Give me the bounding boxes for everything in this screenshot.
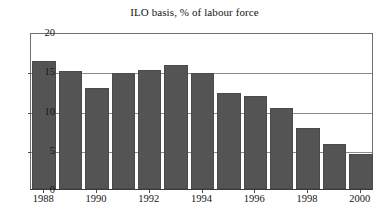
bar-1995 (217, 93, 240, 189)
bar-2000 (349, 154, 372, 189)
y-tick-label-5: 5 (29, 146, 55, 156)
x-tick-label-2000: 2000 (349, 193, 370, 204)
bar-1997 (270, 108, 293, 189)
x-tick-mark-1996 (254, 190, 255, 193)
bar-1992 (138, 70, 161, 189)
x-tick-mark-1998 (307, 190, 308, 193)
x-tick-label-1998: 1998 (297, 193, 318, 204)
x-tick-mark-1988 (43, 190, 44, 193)
x-tick-label-1990: 1990 (85, 193, 106, 204)
bar-1994 (191, 73, 214, 189)
bars-layer (31, 34, 372, 189)
chart-title: ILO basis, % of labour force (0, 6, 389, 18)
bar-1991 (112, 73, 135, 189)
x-tick-mark-1992 (149, 190, 150, 193)
x-tick-label-1994: 1994 (191, 193, 212, 204)
bar-1988 (32, 61, 55, 189)
bar-1996 (244, 96, 267, 189)
y-tick-label-20: 20 (29, 28, 55, 38)
bar-1989 (59, 71, 82, 189)
plot-area (30, 33, 373, 190)
x-tick-label-1996: 1996 (244, 193, 265, 204)
x-tick-mark-1990 (96, 190, 97, 193)
bar-chart-figure: ILO basis, % of labour force 05101520198… (0, 0, 389, 213)
bar-1990 (85, 88, 108, 189)
bar-1993 (164, 65, 187, 189)
x-tick-mark-2000 (360, 190, 361, 193)
x-tick-mark-1994 (202, 190, 203, 193)
bar-1999 (323, 144, 346, 189)
y-tick-label-15: 15 (29, 67, 55, 77)
x-tick-label-1988: 1988 (33, 193, 54, 204)
x-tick-label-1992: 1992 (138, 193, 159, 204)
y-tick-label-10: 10 (29, 107, 55, 117)
bar-1998 (296, 128, 319, 189)
